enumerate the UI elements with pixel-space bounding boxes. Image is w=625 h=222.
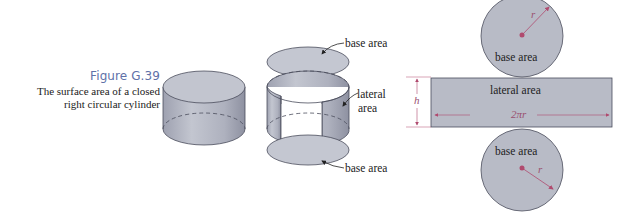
closed-cylinder [163, 71, 245, 145]
label-top-base: base area [345, 37, 387, 49]
label-net-bottom: base area [495, 145, 537, 157]
label-circumference: 2πr [511, 108, 527, 120]
label-net-rectangle: lateral area [490, 84, 541, 96]
label-radius-bottom: r [538, 163, 543, 175]
label-lateral-line1: lateral [357, 88, 386, 100]
label-bottom-base: base area [345, 162, 387, 174]
center-dot-top [520, 33, 525, 38]
net-top-circle [481, 0, 563, 77]
label-lateral-line2: area [358, 102, 377, 114]
center-dot-bottom [520, 166, 525, 171]
exploded-cylinder: base area lateral area base area [267, 37, 387, 174]
label-radius-top: r [531, 8, 536, 20]
cylinder-net: r base area lateral area 2πr h base area… [406, 0, 612, 211]
cylinder-diagram: base area lateral area base area r base … [0, 0, 625, 222]
label-height: h [414, 94, 420, 106]
label-net-top: base area [495, 51, 537, 63]
bottom-base-disk [267, 135, 349, 165]
